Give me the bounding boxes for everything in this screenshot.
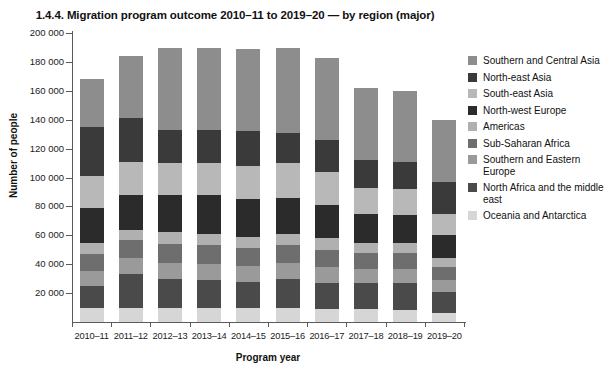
legend-item[interactable]: Americas <box>468 121 610 133</box>
bar-stack[interactable] <box>276 48 300 322</box>
bar-stack[interactable] <box>315 58 339 322</box>
bar-segment[interactable] <box>197 48 221 130</box>
bar-segment[interactable] <box>236 131 260 166</box>
bar-segment[interactable] <box>197 245 221 264</box>
bar-segment[interactable] <box>393 310 417 322</box>
bar-stack[interactable] <box>119 56 143 322</box>
bar-stack[interactable] <box>236 49 260 322</box>
bar-segment[interactable] <box>432 280 456 292</box>
legend-item[interactable]: North-west Europe <box>468 105 610 117</box>
bar-segment[interactable] <box>276 279 300 308</box>
bar-segment[interactable] <box>315 267 339 283</box>
bar-segment[interactable] <box>236 308 260 322</box>
bar-segment[interactable] <box>315 205 339 238</box>
bar-segment[interactable] <box>236 266 260 282</box>
bar-segment[interactable] <box>119 274 143 307</box>
bar-segment[interactable] <box>80 308 104 322</box>
bar-segment[interactable] <box>432 292 456 314</box>
bar-segment[interactable] <box>158 308 182 322</box>
bar-segment[interactable] <box>80 243 104 255</box>
bar-segment[interactable] <box>236 237 260 249</box>
bar-segment[interactable] <box>354 269 378 283</box>
bar-segment[interactable] <box>80 254 104 271</box>
bar-segment[interactable] <box>119 258 143 274</box>
bar-segment[interactable] <box>393 162 417 189</box>
bar-segment[interactable] <box>236 248 260 265</box>
bar-segment[interactable] <box>80 176 104 208</box>
bar-segment[interactable] <box>315 172 339 205</box>
bar-segment[interactable] <box>393 91 417 162</box>
bar-segment[interactable] <box>393 189 417 215</box>
bar-segment[interactable] <box>197 308 221 322</box>
bar-segment[interactable] <box>158 279 182 308</box>
bar-segment[interactable] <box>236 199 260 237</box>
bar-segment[interactable] <box>432 267 456 280</box>
bar-segment[interactable] <box>432 214 456 236</box>
bar-segment[interactable] <box>80 271 104 285</box>
bar-segment[interactable] <box>393 243 417 253</box>
legend-item[interactable]: Sub-Saharan Africa <box>468 138 610 150</box>
bar-segment[interactable] <box>276 263 300 279</box>
bar-segment[interactable] <box>276 308 300 322</box>
bar-segment[interactable] <box>276 48 300 133</box>
bar-segment[interactable] <box>158 195 182 233</box>
bar-segment[interactable] <box>393 253 417 269</box>
bar-segment[interactable] <box>315 58 339 140</box>
bar-segment[interactable] <box>315 140 339 172</box>
bar-segment[interactable] <box>354 283 378 309</box>
bar-segment[interactable] <box>158 244 182 263</box>
bar-segment[interactable] <box>236 166 260 199</box>
legend-item[interactable]: Southern and Eastern Europe <box>468 154 610 177</box>
bar-segment[interactable] <box>80 79 104 127</box>
bar-segment[interactable] <box>276 245 300 262</box>
bar-segment[interactable] <box>197 280 221 307</box>
bar-segment[interactable] <box>432 258 456 267</box>
bar-segment[interactable] <box>119 162 143 195</box>
bar-segment[interactable] <box>80 286 104 308</box>
bar-segment[interactable] <box>432 313 456 322</box>
bar-segment[interactable] <box>119 308 143 322</box>
bar-segment[interactable] <box>119 240 143 259</box>
bar-segment[interactable] <box>354 88 378 160</box>
bar-segment[interactable] <box>119 195 143 230</box>
bar-segment[interactable] <box>119 230 143 240</box>
bar-segment[interactable] <box>80 127 104 176</box>
bar-segment[interactable] <box>432 120 456 182</box>
bar-segment[interactable] <box>393 283 417 310</box>
bar-segment[interactable] <box>276 163 300 198</box>
bar-segment[interactable] <box>393 215 417 242</box>
bar-segment[interactable] <box>393 269 417 283</box>
bar-segment[interactable] <box>354 188 378 214</box>
bar-stack[interactable] <box>393 91 417 322</box>
bar-segment[interactable] <box>315 238 339 250</box>
bar-stack[interactable] <box>354 88 378 322</box>
legend-item[interactable]: North Africa and the middle east <box>468 182 610 205</box>
bar-stack[interactable] <box>158 48 182 322</box>
bar-stack[interactable] <box>80 79 104 322</box>
bar-segment[interactable] <box>354 160 378 187</box>
bar-segment[interactable] <box>197 195 221 234</box>
bar-segment[interactable] <box>432 182 456 214</box>
bar-segment[interactable] <box>432 235 456 258</box>
bar-segment[interactable] <box>197 234 221 246</box>
bar-stack[interactable] <box>197 48 221 322</box>
bar-segment[interactable] <box>119 118 143 161</box>
bar-segment[interactable] <box>315 309 339 322</box>
bar-segment[interactable] <box>197 264 221 280</box>
bar-segment[interactable] <box>119 56 143 118</box>
bar-segment[interactable] <box>158 48 182 130</box>
bar-segment[interactable] <box>236 49 260 131</box>
legend-item[interactable]: South-east Asia <box>468 88 610 100</box>
bar-segment[interactable] <box>354 243 378 253</box>
bar-segment[interactable] <box>197 130 221 163</box>
bar-segment[interactable] <box>158 232 182 244</box>
bar-segment[interactable] <box>315 250 339 267</box>
bar-segment[interactable] <box>354 309 378 322</box>
legend-item[interactable]: North-east Asia <box>468 72 610 84</box>
bar-stack[interactable] <box>432 120 456 322</box>
bar-segment[interactable] <box>276 198 300 234</box>
legend-item[interactable]: Oceania and Antarctica <box>468 210 610 222</box>
bar-segment[interactable] <box>158 263 182 279</box>
bar-segment[interactable] <box>158 130 182 163</box>
bar-segment[interactable] <box>197 163 221 195</box>
